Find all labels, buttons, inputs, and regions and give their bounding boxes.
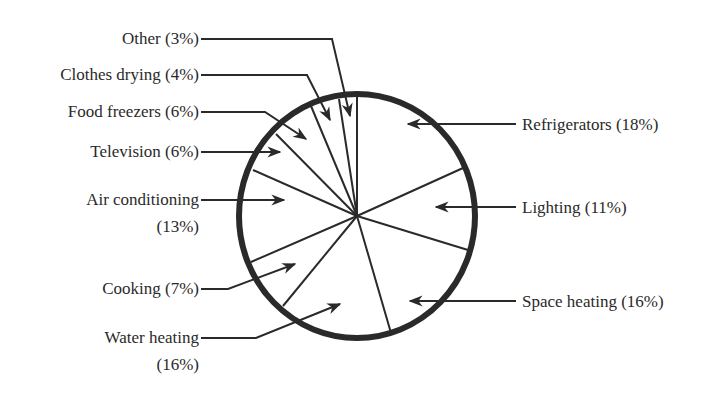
label-space-heating: Space heating (16%) xyxy=(522,292,664,311)
label-lighting: Lighting (11%) xyxy=(522,198,627,217)
slice-dividers xyxy=(251,96,468,333)
arrow-other xyxy=(201,39,350,116)
label-cooking: Cooking (7%) xyxy=(102,279,199,298)
label-television: Television (6%) xyxy=(90,142,199,161)
label-clothes-drying: Clothes drying (4%) xyxy=(60,65,199,84)
label-food-freezers: Food freezers (6%) xyxy=(68,102,199,121)
label-water-heating: Water heating xyxy=(105,328,200,347)
label-other: Other (3%) xyxy=(122,29,199,48)
leader-arrows xyxy=(201,39,516,338)
label-water-heating-pct: (16%) xyxy=(157,355,199,374)
label-refrigerators: Refrigerators (18%) xyxy=(522,115,658,134)
label-air-conditioning: Air conditioning xyxy=(86,190,199,209)
pie-chart: Other (3%) Clothes drying (4%) Food free… xyxy=(0,0,724,400)
label-air-conditioning-pct: (13%) xyxy=(157,217,199,236)
